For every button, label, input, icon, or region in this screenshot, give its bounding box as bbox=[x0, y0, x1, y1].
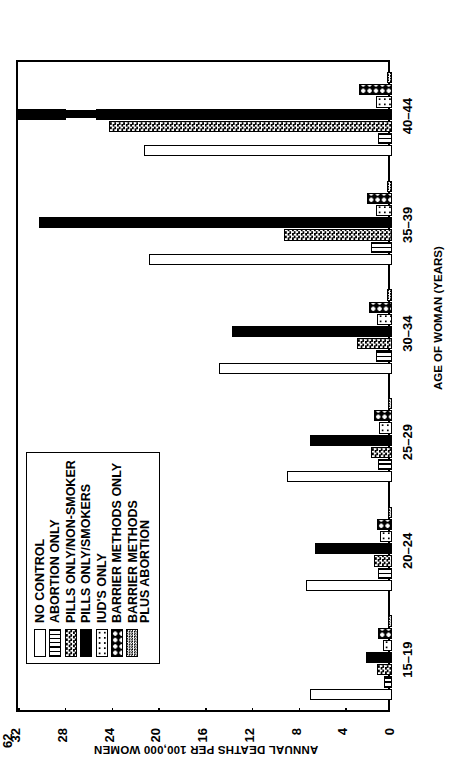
bar-25-29-pills-only-smokers bbox=[310, 435, 392, 446]
bar-30-34-barrier-methods-only bbox=[369, 302, 392, 313]
bar-35-39-pills-only-non-smoker bbox=[284, 229, 392, 240]
bar-20-24-barrier-methods-only bbox=[377, 519, 392, 530]
bar-30-34-no-control bbox=[219, 363, 392, 374]
x-tick-20-24: 20–24 bbox=[400, 533, 415, 569]
bar-35-39-iud-s-only bbox=[376, 205, 392, 216]
legend-item: ABORTION ONLY bbox=[48, 460, 64, 657]
bar-20-24-iud-s-only bbox=[380, 531, 392, 542]
legend-label-line1: IUD'S ONLY bbox=[96, 553, 109, 623]
bar-20-24-barrier-methods-plus-abortion bbox=[388, 507, 392, 518]
y-tick-12: 12 bbox=[242, 728, 257, 742]
bar-20-24-abortion-only bbox=[378, 568, 392, 579]
y-tick-28: 28 bbox=[55, 728, 70, 742]
legend-item: IUD'S ONLY bbox=[94, 460, 110, 657]
x-axis-title: AGE OF WOMAN (YEARS) bbox=[432, 246, 444, 390]
legend-label: IUD'S ONLY bbox=[96, 553, 109, 623]
bar-15-19-pills-only-non-smoker bbox=[377, 664, 392, 675]
y-axis-title: ANNUAL DEATHS PER 100,000 WOMEN bbox=[86, 744, 326, 756]
legend-label: PILLS ONLY/NON-SMOKER bbox=[65, 460, 78, 623]
bar-20-24-pills-only-smokers bbox=[315, 543, 392, 554]
gridline bbox=[299, 708, 301, 710]
bar-15-19-no-control bbox=[310, 689, 392, 700]
gridline bbox=[345, 708, 347, 710]
bar-15-19-barrier-methods-plus-abortion bbox=[388, 615, 392, 626]
y-tick-4: 4 bbox=[335, 728, 350, 735]
gridline bbox=[205, 708, 207, 710]
x-tick-15-19: 15–19 bbox=[400, 641, 415, 677]
legend-swatch-circ bbox=[96, 629, 108, 657]
legend-swatch-solid bbox=[80, 629, 92, 657]
bar-40-44-no-control bbox=[144, 145, 392, 156]
bar-40-44-barrier-methods-only bbox=[359, 84, 392, 95]
legend-swatch-none bbox=[34, 629, 46, 657]
legend-item: BARRIER METHODSPLUS ABORTION bbox=[125, 460, 153, 657]
value-label-62: 62 bbox=[0, 734, 15, 748]
bar-35-39-barrier-methods-only bbox=[367, 193, 392, 204]
gridline bbox=[18, 708, 20, 710]
bar-25-29-iud-s-only bbox=[379, 422, 392, 433]
bar-30-34-barrier-methods-plus-abortion bbox=[387, 289, 392, 300]
bar-30-34-pills-only-smokers bbox=[232, 326, 392, 337]
x-tick-35-39: 35–39 bbox=[400, 207, 415, 243]
y-tick-0: 0 bbox=[382, 728, 397, 735]
bar-25-29-barrier-methods-plus-abortion bbox=[388, 398, 392, 409]
chart-canvas: ANNUAL DEATHS PER 100,000 WOMEN 04812162… bbox=[0, 0, 461, 782]
legend-label-line1: NO CONTROL bbox=[34, 539, 47, 623]
bar-30-34-abortion-only bbox=[376, 350, 392, 361]
bar-35-39-barrier-methods-plus-abortion bbox=[387, 181, 392, 192]
legend-item: PILLS ONLY/NON-SMOKER bbox=[63, 460, 79, 657]
legend-label: BARRIER METHODSPLUS ABORTION bbox=[127, 500, 152, 623]
bar-30-34-iud-s-only bbox=[377, 314, 392, 325]
bar-40-44-barrier-methods-plus-abortion bbox=[387, 72, 392, 83]
legend-label: BARRIER METHODS ONLY bbox=[111, 463, 124, 623]
legend-item: NO CONTROL bbox=[32, 460, 48, 657]
bar-25-29-pills-only-non-smoker bbox=[371, 447, 392, 458]
x-tick-30-34: 30–34 bbox=[400, 315, 415, 351]
legend-item: BARRIER METHODS ONLY bbox=[110, 460, 126, 657]
x-tick-25-29: 25–29 bbox=[400, 424, 415, 460]
bar-15-19-iud-s-only bbox=[383, 640, 392, 651]
legend-swatch-check bbox=[65, 629, 77, 657]
bar-25-29-abortion-only bbox=[378, 459, 392, 470]
bar-15-19-barrier-methods-only bbox=[378, 628, 392, 639]
y-tick-8: 8 bbox=[289, 728, 304, 735]
legend-label-line1: PILLS ONLY/SMOKERS bbox=[80, 484, 93, 623]
legend-swatch-bigdot bbox=[111, 629, 123, 657]
bar-20-24-pills-only-non-smoker bbox=[374, 555, 392, 566]
legend-label: NO CONTROL bbox=[34, 539, 47, 623]
bar-35-39-no-control bbox=[149, 254, 392, 265]
bar-25-29-no-control bbox=[287, 471, 392, 482]
bar-20-24-no-control bbox=[306, 580, 392, 591]
gridline bbox=[112, 708, 114, 710]
legend-label-line2: PLUS ABORTION bbox=[139, 500, 152, 623]
legend-label: ABORTION ONLY bbox=[49, 519, 62, 623]
axis-break-icon bbox=[66, 106, 96, 122]
x-tick-40-44: 40–44 bbox=[400, 98, 415, 134]
bar-30-34-pills-only-non-smoker bbox=[357, 338, 392, 349]
bar-40-44-iud-s-only bbox=[376, 96, 392, 107]
gridline bbox=[158, 708, 160, 710]
legend-label-line1: PILLS ONLY/NON-SMOKER bbox=[65, 460, 78, 623]
bar-35-39-abortion-only bbox=[371, 242, 392, 253]
y-tick-20: 20 bbox=[148, 728, 163, 742]
bar-15-19-abortion-only bbox=[384, 676, 392, 687]
bar-40-44-pills-only-non-smoker bbox=[109, 121, 392, 132]
legend-label-line1: BARRIER METHODS ONLY bbox=[111, 463, 124, 623]
legend-swatch-vline bbox=[49, 629, 61, 657]
bar-35-39-pills-only-smokers bbox=[39, 217, 392, 228]
y-tick-16: 16 bbox=[195, 728, 210, 742]
gridline bbox=[252, 708, 254, 710]
legend-label-line1: ABORTION ONLY bbox=[49, 519, 62, 623]
bar-40-44-abortion-only bbox=[378, 133, 392, 144]
legend: NO CONTROLABORTION ONLYPILLS ONLY/NON-SM… bbox=[26, 452, 160, 664]
bar-15-19-pills-only-smokers bbox=[366, 652, 392, 663]
gridline bbox=[65, 708, 67, 710]
legend-item: PILLS ONLY/SMOKERS bbox=[79, 460, 95, 657]
bar-25-29-barrier-methods-only bbox=[374, 410, 392, 421]
y-tick-24: 24 bbox=[102, 728, 117, 742]
legend-label: PILLS ONLY/SMOKERS bbox=[80, 484, 93, 623]
legend-swatch-fine bbox=[126, 629, 138, 657]
